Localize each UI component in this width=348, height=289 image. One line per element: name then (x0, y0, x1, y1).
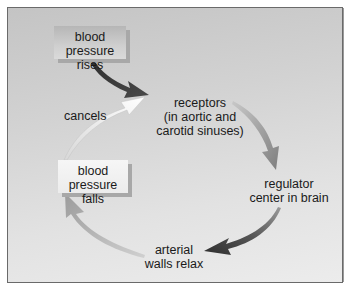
node-blood-pressure-rises-line1: blood (60, 30, 120, 44)
node-arterial-walls-relax: arterial walls relax (142, 243, 206, 271)
node-regulator-center: regulator center in brain (244, 177, 334, 205)
node-blood-pressure-falls: blood pressure falls (58, 160, 128, 193)
arrow-falls-to-receptors-cancels (64, 97, 145, 160)
node-blood-pressure-falls-line2: pressure falls (64, 178, 122, 206)
node-receptors: receptors (in aortic and carotid sinuses… (150, 96, 250, 138)
label-cancels: cancels (64, 109, 114, 123)
node-regulator-line2: center in brain (244, 191, 334, 205)
node-receptors-line1: receptors (150, 96, 250, 110)
node-arterial-line2: walls relax (142, 257, 206, 271)
node-arterial-line1: arterial (142, 243, 206, 257)
node-receptors-line3: carotid sinuses) (150, 124, 250, 138)
arrow-regulator-to-arterial (204, 207, 281, 255)
node-receptors-line2: (in aortic and (150, 110, 250, 124)
node-blood-pressure-rises: blood pressure rises (54, 26, 126, 59)
node-blood-pressure-falls-line1: blood (64, 164, 122, 178)
node-regulator-line1: regulator (244, 177, 334, 191)
node-blood-pressure-rises-line2: pressure rises (60, 44, 120, 72)
